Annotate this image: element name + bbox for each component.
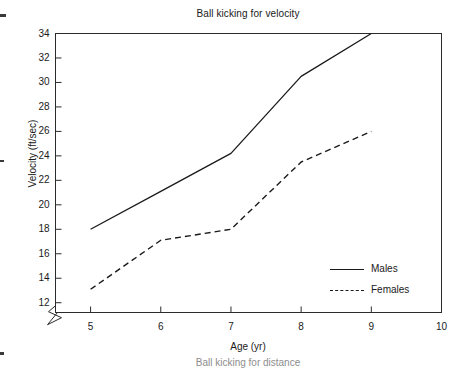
y-tick-label: 22 <box>24 174 50 185</box>
legend-item-females: Females <box>330 279 436 300</box>
page-edge-mark <box>0 160 4 162</box>
y-tick-label: 32 <box>24 52 50 63</box>
x-tick-label: 5 <box>79 321 103 332</box>
y-tick-label: 12 <box>24 297 50 308</box>
y-tick-label: 26 <box>24 125 50 136</box>
y-axis-break-icon <box>48 306 62 325</box>
page-edge-mark <box>0 352 4 355</box>
legend-line-solid-icon <box>330 264 364 274</box>
series-line-males <box>91 34 372 230</box>
chart-legend: Males Females <box>330 258 436 300</box>
next-figure-title: Ball kicking for distance <box>55 357 441 368</box>
legend-label: Females <box>371 284 409 295</box>
x-tick-label: 9 <box>359 321 383 332</box>
legend-line-dashed-icon <box>330 285 364 295</box>
y-tick-label: 20 <box>24 199 50 210</box>
y-tick-label: 24 <box>24 150 50 161</box>
x-tick-label: 8 <box>289 321 313 332</box>
chart-title: Ball kicking for velocity <box>55 8 441 19</box>
y-tick-label: 18 <box>24 223 50 234</box>
y-tick-label: 30 <box>24 76 50 87</box>
legend-item-males: Males <box>330 258 436 279</box>
legend-label: Males <box>371 263 398 274</box>
y-tick-label: 16 <box>24 248 50 259</box>
x-tick-label: 7 <box>219 321 243 332</box>
x-tick-label: 6 <box>149 321 173 332</box>
y-tick-label: 34 <box>24 28 50 39</box>
x-tick-label: 10 <box>430 321 454 332</box>
y-tick-label: 28 <box>24 101 50 112</box>
x-axis-label: Age (yr) <box>55 341 441 352</box>
page-edge-mark <box>0 14 6 17</box>
y-tick-label: 14 <box>24 272 50 283</box>
